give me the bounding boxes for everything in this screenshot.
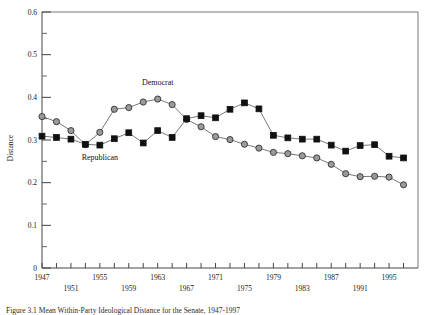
data-point-democrat	[155, 96, 161, 102]
series-annotations: DemocratRepublican	[82, 78, 175, 162]
x-tick-label: 1987	[324, 273, 339, 282]
data-point-republican	[82, 141, 88, 147]
figure-caption: Figure 3.1 Mean Within-Party Ideological…	[6, 306, 426, 315]
data-point-republican	[213, 115, 219, 121]
data-point-democrat	[400, 182, 406, 188]
series-polylines	[42, 99, 404, 185]
data-point-democrat	[241, 141, 247, 147]
x-tick-label: 1967	[179, 284, 194, 293]
x-tick-label: 1951	[63, 284, 78, 293]
x-axis-ticks	[42, 263, 404, 268]
data-point-republican	[314, 136, 320, 142]
y-axis-tick-labels: 00.10.20.30.40.50.6	[28, 8, 38, 273]
series-label-republican: Republican	[82, 153, 118, 162]
data-point-republican	[299, 136, 305, 142]
data-point-republican	[270, 132, 276, 138]
data-point-democrat	[328, 161, 334, 167]
series-line-democrat	[42, 99, 404, 185]
y-tick-label: 0	[33, 264, 37, 273]
x-tick-label: 1959	[121, 284, 136, 293]
x-tick-label: 1955	[92, 273, 107, 282]
series-line-republican	[42, 103, 404, 158]
x-tick-label: 1971	[208, 273, 223, 282]
data-point-republican	[198, 113, 204, 119]
data-point-democrat	[256, 145, 262, 151]
y-tick-label: 0.5	[28, 50, 38, 59]
data-point-republican	[242, 100, 248, 106]
series-markers	[39, 96, 407, 188]
data-point-republican	[285, 135, 291, 141]
x-tick-label: 1995	[382, 273, 397, 282]
x-tick-label: 1979	[266, 273, 281, 282]
series-label-democrat: Democrat	[142, 78, 174, 87]
data-point-republican	[357, 143, 363, 149]
x-tick-label: 1947	[35, 273, 50, 282]
data-point-democrat	[68, 128, 74, 134]
data-point-democrat	[285, 151, 291, 157]
data-point-republican	[97, 142, 103, 148]
data-point-republican	[386, 153, 392, 159]
data-point-democrat	[53, 119, 59, 125]
data-point-republican	[140, 140, 146, 146]
data-point-democrat	[39, 113, 45, 119]
data-point-republican	[343, 148, 349, 154]
data-point-democrat	[198, 124, 204, 130]
data-point-republican	[111, 136, 117, 142]
data-point-republican	[328, 142, 334, 148]
data-point-republican	[126, 130, 132, 136]
y-axis-ticks	[42, 12, 51, 268]
data-point-republican	[227, 106, 233, 112]
data-point-republican	[256, 106, 262, 112]
x-tick-label: 1975	[237, 284, 252, 293]
x-tick-label: 1991	[353, 284, 368, 293]
data-point-democrat	[372, 173, 378, 179]
data-point-republican	[39, 133, 45, 139]
data-point-republican	[401, 155, 407, 161]
y-tick-label: 0.6	[28, 8, 38, 17]
figure-container: 00.10.20.30.40.50.6 19471951195519591963…	[0, 0, 429, 315]
data-point-democrat	[140, 99, 146, 105]
data-point-republican	[372, 142, 378, 148]
data-point-democrat	[299, 153, 305, 159]
data-point-democrat	[357, 174, 363, 180]
distance-line-chart: 00.10.20.30.40.50.6 19471951195519591963…	[0, 0, 429, 315]
data-point-democrat	[126, 104, 132, 110]
y-tick-label: 0.4	[28, 93, 38, 102]
data-point-republican	[54, 135, 60, 141]
data-point-democrat	[343, 171, 349, 177]
y-tick-label: 0.1	[28, 221, 38, 230]
data-point-democrat	[227, 136, 233, 142]
x-tick-label: 1963	[150, 273, 165, 282]
x-axis-tick-labels: 1947195119551959196319671971197519791983…	[35, 273, 397, 293]
y-axis-title: Distance	[6, 134, 15, 161]
data-point-democrat	[169, 101, 175, 107]
data-point-democrat	[212, 133, 218, 139]
data-point-democrat	[386, 174, 392, 180]
y-tick-label: 0.2	[28, 178, 38, 187]
x-tick-label: 1983	[295, 284, 310, 293]
data-point-democrat	[314, 155, 320, 161]
data-point-republican	[68, 136, 74, 142]
y-tick-label: 0.3	[28, 136, 38, 145]
data-point-republican	[169, 135, 175, 141]
data-point-republican	[155, 128, 161, 134]
data-point-democrat	[270, 149, 276, 155]
data-point-republican	[184, 116, 190, 122]
data-point-democrat	[111, 106, 117, 112]
data-point-democrat	[97, 129, 103, 135]
